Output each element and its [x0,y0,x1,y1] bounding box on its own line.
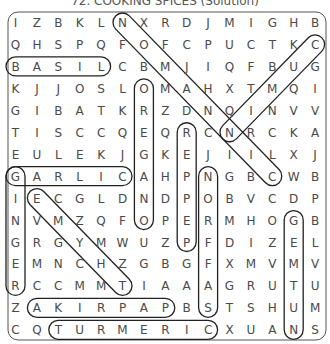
grid-cell[interactable]: P [119,301,126,315]
grid-cell[interactable]: I [185,323,189,337]
grid-cell[interactable]: G [11,236,20,250]
grid-cell[interactable]: H [97,257,106,271]
grid-cell[interactable]: T [96,104,105,118]
grid-cell[interactable]: T [11,126,20,140]
grid-cell[interactable]: B [183,301,191,315]
grid-cell[interactable]: P [183,192,190,206]
grid-cell[interactable]: S [247,301,255,315]
grid-cell[interactable]: W [288,170,300,184]
grid-cell[interactable]: U [140,236,149,250]
grid-cell[interactable]: J [312,148,317,162]
grid-cell[interactable]: I [78,60,82,74]
grid-cell[interactable]: P [204,38,211,52]
grid-cell[interactable]: H [246,214,255,228]
grid-cell[interactable]: P [183,170,190,184]
grid-cell[interactable]: P [162,214,169,228]
grid-cell[interactable]: U [289,60,298,74]
grid-cell[interactable]: I [14,16,18,30]
grid-cell[interactable]: C [76,126,84,140]
grid-cell[interactable]: G [225,170,234,184]
grid-cell[interactable]: A [140,301,149,315]
grid-cell[interactable]: Q [96,38,105,52]
grid-cell[interactable]: V [33,214,42,228]
grid-cell[interactable]: J [205,16,210,30]
grid-cell[interactable]: I [35,126,39,140]
grid-cell[interactable]: S [54,126,62,140]
grid-cell[interactable]: Z [118,257,126,271]
grid-cell[interactable]: K [290,126,299,140]
grid-cell[interactable]: H [204,82,213,96]
grid-cell[interactable]: M [32,257,42,271]
grid-cell[interactable]: Y [75,236,84,250]
grid-cell[interactable]: Z [76,214,84,228]
grid-cell[interactable]: A [76,104,85,118]
grid-cell[interactable]: V [290,104,299,118]
grid-cell[interactable]: V [268,257,277,271]
grid-cell[interactable]: R [11,279,19,293]
grid-cell[interactable]: R [183,126,191,140]
grid-cell[interactable]: M [96,236,106,250]
grid-cell[interactable]: C [11,323,19,337]
grid-cell[interactable]: U [289,301,298,315]
grid-cell[interactable]: G [139,257,148,271]
grid-cell[interactable]: Q [289,82,298,96]
grid-cell[interactable]: H [268,301,277,315]
grid-cell[interactable]: Q [225,60,234,74]
grid-cell[interactable]: Z [161,236,169,250]
grid-cell[interactable]: B [140,60,148,74]
grid-cell[interactable]: C [54,192,62,206]
grid-cell[interactable]: Z [33,16,41,30]
grid-cell[interactable]: R [97,301,105,315]
grid-cell[interactable]: Q [96,214,105,228]
grid-cell[interactable]: C [311,38,319,52]
grid-cell[interactable]: L [98,16,105,30]
grid-cell[interactable]: L [119,82,126,96]
grid-cell[interactable]: L [98,192,105,206]
grid-cell[interactable]: O [203,192,212,206]
grid-cell[interactable]: L [76,170,83,184]
grid-cell[interactable]: S [97,82,105,96]
grid-cell[interactable]: R [247,126,255,140]
grid-cell[interactable]: I [99,170,103,184]
grid-cell[interactable]: C [247,38,255,52]
grid-cell[interactable]: K [12,82,21,96]
grid-cell[interactable]: O [139,214,148,228]
grid-cell[interactable]: J [56,82,61,96]
grid-cell[interactable]: H [289,16,298,30]
grid-cell[interactable]: B [268,60,276,74]
grid-cell[interactable]: R [54,170,62,184]
grid-cell[interactable]: I [313,82,317,96]
grid-cell[interactable]: O [139,38,148,52]
grid-cell[interactable]: T [289,279,298,293]
grid-cell[interactable]: D [182,16,191,30]
grid-cell[interactable]: E [76,148,84,162]
grid-cell[interactable]: F [205,257,212,271]
grid-cell[interactable]: M [310,301,320,315]
grid-cell[interactable]: F [119,214,126,228]
grid-cell[interactable]: E [140,126,148,140]
grid-cell[interactable]: E [183,214,191,228]
grid-cell[interactable]: G [225,279,234,293]
grid-cell[interactable]: R [161,323,169,337]
grid-cell[interactable]: R [97,323,105,337]
grid-cell[interactable]: U [225,38,234,52]
grid-cell[interactable]: B [54,16,62,30]
grid-cell[interactable]: G [11,104,20,118]
grid-cell[interactable]: M [160,60,170,74]
grid-cell[interactable]: Q [161,126,170,140]
grid-cell[interactable]: U [247,323,256,337]
grid-cell[interactable]: X [225,257,233,271]
grid-cell[interactable]: I [249,16,253,30]
grid-cell[interactable]: L [55,148,62,162]
grid-cell[interactable]: C [97,126,105,140]
grid-cell[interactable]: U [33,148,42,162]
grid-cell[interactable]: O [75,82,84,96]
grid-cell[interactable]: E [12,257,20,271]
grid-cell[interactable]: X [290,148,298,162]
grid-cell[interactable]: U [268,279,277,293]
grid-cell[interactable]: R [140,104,148,118]
grid-cell[interactable]: F [162,38,169,52]
grid-cell[interactable]: X [225,323,233,337]
grid-cell[interactable]: V [311,104,320,118]
grid-cell[interactable]: V [311,257,320,271]
